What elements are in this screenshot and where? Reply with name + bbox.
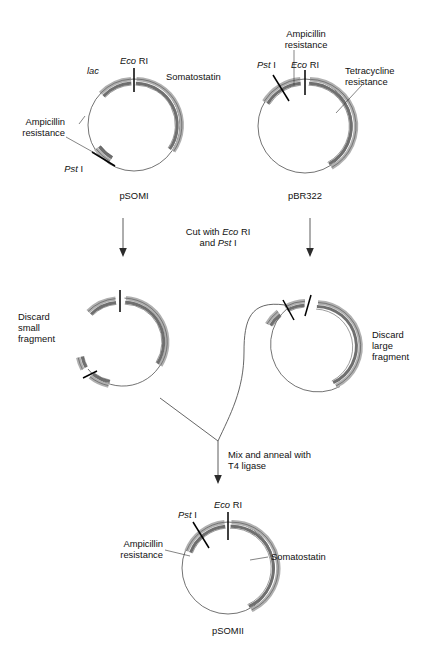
- plasmid-cut-psomi: Discard small fragment: [18, 290, 167, 386]
- psomii-somatostatin-label: Somatostatin: [271, 551, 326, 562]
- pbr322-tetracycline-arc: [309, 79, 357, 167]
- psomii-name-label: pSOMII: [212, 625, 244, 636]
- plasmid-psomii: Eco RI Pst I Ampicillin resistance Somat…: [120, 499, 325, 636]
- discard-large-label-l1: Discard: [372, 329, 404, 340]
- psomi-lac-label: lac: [87, 65, 99, 76]
- cut-psomi-lac-arc: [88, 299, 116, 316]
- cut-step-caption-line2: and Pst I: [199, 237, 236, 248]
- discard-small-label-l2: small: [18, 322, 40, 333]
- cut-psomi-somatostatin-arc: [125, 298, 168, 365]
- psomi-ecori-label: Eco RI: [120, 55, 148, 66]
- pbr322-tetracycline-label-l1: Tetracycline: [345, 65, 395, 76]
- psomi-lac-arc: [101, 79, 132, 97]
- discard-large-label-l3: fragment: [372, 351, 409, 362]
- psomi-somatostatin-label: Somatostatin: [166, 71, 221, 82]
- psomi-amp-leader-top: [79, 116, 85, 124]
- psomii-psti-label: Pst I: [178, 509, 197, 520]
- pbr322-ampicillin-label-l2: resistance: [285, 39, 328, 50]
- ligation-caption-line1: Mix and anneal with: [228, 449, 311, 460]
- psomi-somatostatin-arc: [135, 79, 181, 151]
- pbr322-ampicillin-label-l1: Ampicillin: [286, 28, 326, 39]
- plasmid-pbr322: Ampicillin resistance Pst I Eco RI Tetra…: [257, 28, 395, 201]
- flowline-from-left: [160, 398, 218, 441]
- psomii-somatostatin-leader: [250, 557, 268, 560]
- cut-psomi-amp-fragment-a: [78, 356, 87, 369]
- figure-canvas: lac Eco RI Somatostatin Ampicillin resis…: [0, 0, 436, 651]
- pbr322-psti-label: Pst I: [257, 59, 276, 70]
- plasmid-cut-pbr322: Discard large fragment: [267, 295, 409, 392]
- pbr322-name-label: pBR322: [288, 190, 322, 201]
- psomii-ampicillin-label-l1: Ampicillin: [123, 538, 163, 549]
- psomi-name-label: pSOMI: [119, 190, 148, 201]
- discard-small-label-l3: fragment: [18, 333, 55, 344]
- ligation-flow: Mix and anneal with T4 ligase: [160, 304, 311, 484]
- cut-pbr322-ecori-tick: [305, 295, 311, 316]
- psomi-psti-label: Pst I: [64, 163, 83, 174]
- psomii-somatostatin-arc: [230, 522, 278, 610]
- psomi-ampicillin-leader: [66, 137, 100, 156]
- pbr322-ecori-label: Eco RI: [291, 59, 319, 70]
- discard-small-label-l1: Discard: [18, 311, 50, 322]
- ligation-arrow-head: [214, 475, 222, 484]
- cut-arrow-left-head: [119, 248, 127, 257]
- cut-pbr322-tetracycline-arc: [316, 303, 361, 387]
- psomii-ampicillin-arc: [187, 522, 226, 553]
- psomii-ecori-label: Eco RI: [214, 499, 242, 510]
- psomii-ampicillin-label-l2: resistance: [120, 549, 163, 560]
- cut-arrow-right-head: [306, 248, 314, 257]
- cut-pbr322-amp-stub: [267, 312, 281, 327]
- cut-step: Cut with Eco RI and Pst I: [119, 218, 314, 257]
- psomi-ampicillin-label-l2: resistance: [22, 127, 65, 138]
- discard-large-label-l2: large: [372, 340, 393, 351]
- cut-step-caption-line1: Cut with Eco RI: [186, 226, 251, 237]
- plasmid-psomi: lac Eco RI Somatostatin Ampicillin resis…: [22, 55, 220, 201]
- pbr322-tetracycline-label-l2: resistance: [345, 76, 388, 87]
- cut-psomi-amp-fragment-b: [90, 373, 110, 386]
- psomi-ampicillin-label-l1: Ampicillin: [25, 116, 65, 127]
- plasmid-diagram: lac Eco RI Somatostatin Ampicillin resis…: [0, 0, 436, 651]
- ligation-caption-line2: T4 ligase: [228, 460, 266, 471]
